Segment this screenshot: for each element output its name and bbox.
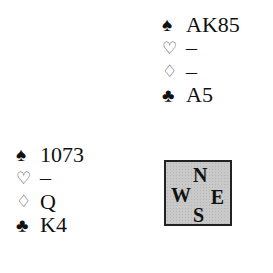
north-hearts-cards: – — [186, 37, 197, 59]
diamond-icon: ♢ — [16, 193, 40, 210]
north-diamonds-cards: – — [186, 61, 197, 83]
west-diamonds-row: ♢ Q — [16, 190, 84, 214]
west-clubs-cards: K4 — [40, 214, 67, 236]
north-spades-cards: AK85 — [186, 14, 240, 36]
diamond-icon: ♢ — [162, 63, 186, 80]
north-hearts-row: ♡ – — [162, 37, 240, 61]
north-spades-row: ♠ AK85 — [162, 13, 240, 37]
club-icon: ♣ — [162, 86, 186, 105]
spade-icon: ♠ — [162, 15, 186, 34]
west-diamonds-cards: Q — [40, 191, 56, 213]
north-clubs-row: ♣ A5 — [162, 84, 240, 108]
north-clubs-cards: A5 — [186, 84, 213, 106]
compass-north-label: N — [193, 165, 207, 185]
club-icon: ♣ — [16, 216, 40, 235]
north-diamonds-row: ♢ – — [162, 60, 240, 84]
heart-icon: ♡ — [16, 170, 40, 187]
compass-east-label: E — [211, 187, 224, 207]
compass-west-label: W — [171, 185, 191, 205]
west-clubs-row: ♣ K4 — [16, 214, 84, 238]
west-spades-cards: 1073 — [40, 144, 84, 166]
spade-icon: ♠ — [16, 145, 40, 164]
west-hand: ♠ 1073 ♡ – ♢ Q ♣ K4 — [16, 143, 84, 237]
west-spades-row: ♠ 1073 — [16, 143, 84, 167]
west-hearts-row: ♡ – — [16, 167, 84, 191]
compass-box: N W E S — [164, 160, 232, 226]
north-hand: ♠ AK85 ♡ – ♢ – ♣ A5 — [162, 13, 240, 107]
heart-icon: ♡ — [162, 40, 186, 57]
compass-south-label: S — [193, 205, 204, 225]
west-hearts-cards: – — [40, 167, 51, 189]
